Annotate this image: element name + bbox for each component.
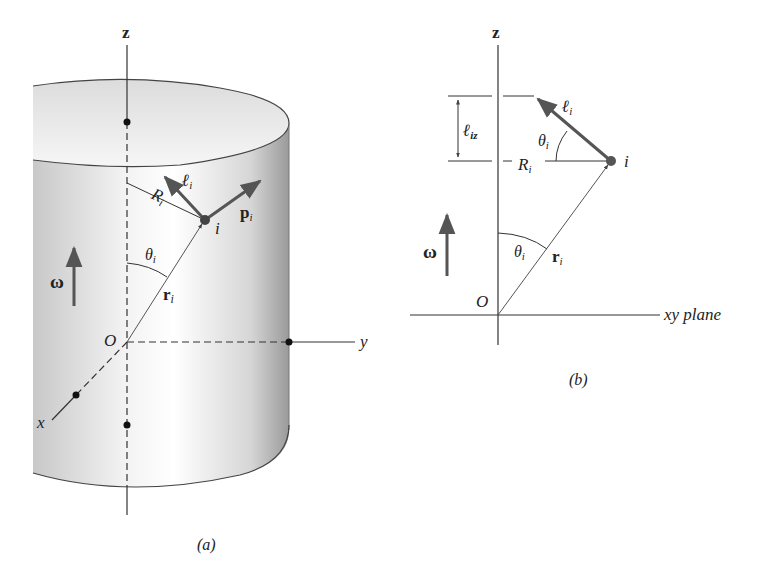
y-axis-dot [286, 339, 293, 346]
theta-arc-lower [498, 233, 547, 249]
caption-a: (a) [197, 536, 216, 554]
theta-arc-upper [556, 131, 567, 161]
z-axis-label-b: z [492, 23, 500, 42]
position-vector-b [498, 165, 608, 315]
y-axis-label: y [358, 332, 368, 351]
cylinder-body [33, 123, 289, 487]
figure-b: z xy plane O ω Ri ℓiz ℓi θi i ri θi [410, 23, 722, 389]
angular-momentum-label-b: ℓi [562, 97, 572, 117]
particle-label: i [215, 219, 220, 238]
x-axis-dot [73, 392, 80, 399]
caption-b: (b) [569, 371, 588, 389]
position-vector-label-b: ri [552, 247, 563, 267]
theta-label-upper: θi [538, 132, 549, 151]
xy-plane-label: xy plane [663, 305, 722, 324]
angular-momentum-vector-b [538, 99, 611, 161]
radius-label-b: Ri [517, 155, 531, 175]
origin-label: O [104, 331, 116, 350]
particle-dot-b [606, 156, 616, 166]
origin-label-b: O [476, 292, 488, 311]
z-axis-bottom-dot [124, 422, 131, 429]
omega-label: ω [50, 271, 64, 292]
liz-label: ℓiz [463, 121, 478, 141]
z-axis-top-dot [124, 119, 131, 126]
omega-label-b: ω [423, 241, 437, 262]
particle-label-b: i [624, 152, 629, 171]
x-axis-label: x [36, 413, 45, 432]
figure-a: z y x O ω ri θi Ri ℓi pi i [33, 23, 368, 554]
particle-dot [200, 215, 210, 225]
theta-label-lower: θi [514, 243, 525, 262]
z-axis-label: z [122, 23, 130, 42]
figure-canvas: z y x O ω ri θi Ri ℓi pi i [0, 0, 773, 567]
